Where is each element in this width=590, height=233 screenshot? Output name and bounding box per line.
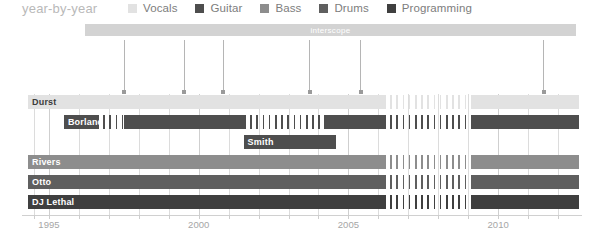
legend-item-guitar: Guitar: [195, 2, 242, 14]
axis-tick: [468, 215, 469, 219]
legend-swatch-icon: [387, 4, 396, 13]
legend-swatch-icon: [319, 4, 328, 13]
axis-tick-label: 2000: [188, 219, 209, 230]
timeline-segment: [384, 195, 471, 209]
timeline-segment: [471, 195, 579, 209]
axis-tick-label: 1995: [38, 219, 59, 230]
legend-label: Programming: [402, 2, 472, 14]
timeline-plot: Three Dollar Bill, Y'all$Significant Oth…: [0, 40, 590, 215]
timeline-segment: [28, 95, 384, 109]
album-stem: [543, 40, 544, 92]
record-label-segment: interscope: [85, 24, 576, 36]
legend-swatch-icon: [260, 4, 269, 13]
record-label-bar: interscope: [0, 24, 590, 36]
timeline-segment: [28, 195, 384, 209]
timeline-segment: [384, 155, 471, 169]
axis-tick: [408, 215, 409, 219]
album-stem: [360, 40, 361, 92]
legend: VocalsGuitarBassDrumsProgramming: [128, 2, 490, 14]
axis-tick: [558, 215, 559, 219]
timeline-segment: [471, 155, 579, 169]
member-row[interactable]: Smith: [0, 135, 590, 149]
x-axis: 1995200020052010: [0, 215, 590, 233]
timeline-segment: [28, 175, 384, 189]
album-stem: [184, 40, 185, 92]
member-row[interactable]: Otto: [0, 175, 590, 189]
legend-item-vocals: Vocals: [128, 2, 177, 14]
axis-tick: [289, 215, 290, 219]
axis-tick: [229, 215, 230, 219]
axis-tick: [528, 215, 529, 219]
member-name-label: DJ Lethal: [32, 198, 74, 207]
legend-label: Guitar: [210, 2, 242, 14]
member-name-label: Otto: [32, 178, 51, 187]
legend-label: Vocals: [143, 2, 177, 14]
legend-label: Bass: [275, 2, 301, 14]
axis-tick: [34, 215, 35, 219]
axis-tick: [79, 215, 80, 219]
timeline-segment: [471, 115, 579, 129]
timeline-segment: [244, 115, 325, 129]
axis-tick-label: 2010: [488, 219, 509, 230]
timeline-segment: [384, 115, 471, 129]
timeline-segment: [471, 175, 579, 189]
legend-swatch-icon: [195, 4, 204, 13]
axis-tick: [109, 215, 110, 219]
legend-item-drums: Drums: [319, 2, 368, 14]
member-name-label: Durst: [32, 98, 57, 107]
member-name-label: Rivers: [32, 158, 61, 167]
axis-tick: [139, 215, 140, 219]
timeline-segment: [124, 115, 244, 129]
chart-header: year-by-year VocalsGuitarBassDrumsProgra…: [0, 0, 590, 20]
member-row[interactable]: Borland: [0, 115, 590, 129]
axis-tick: [259, 215, 260, 219]
axis-tick: [438, 215, 439, 219]
timeline-segment: [324, 115, 384, 129]
album-stem: [124, 40, 125, 92]
member-name-label: Smith: [248, 138, 274, 147]
legend-item-bass: Bass: [260, 2, 301, 14]
axis-tick: [318, 215, 319, 219]
axis-tick: [169, 215, 170, 219]
legend-label: Drums: [334, 2, 368, 14]
timeline-segment: [384, 95, 471, 109]
record-label-name: interscope: [310, 26, 350, 35]
timeline-segment: [471, 95, 579, 109]
album-stem: [309, 40, 310, 92]
member-name-label: Borland: [68, 118, 103, 127]
member-row[interactable]: Durst: [0, 95, 590, 109]
member-row[interactable]: Rivers: [0, 155, 590, 169]
axis-tick-label: 2005: [338, 219, 359, 230]
member-rows: DurstBorlandSmithRiversOttoDJ Lethal: [0, 94, 590, 215]
legend-item-programming: Programming: [387, 2, 472, 14]
page-title: year-by-year: [22, 1, 97, 16]
axis-tick: [378, 215, 379, 219]
member-row[interactable]: DJ Lethal: [0, 195, 590, 209]
timeline-segment: [28, 155, 384, 169]
album-stem: [223, 40, 224, 92]
timeline-segment: [384, 175, 471, 189]
legend-swatch-icon: [128, 4, 137, 13]
